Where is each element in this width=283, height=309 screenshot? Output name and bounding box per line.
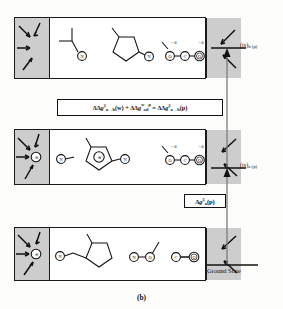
- energy-diagram: [206, 10, 283, 285]
- molecule-group-bottom: N N O C: [50, 228, 206, 280]
- atom-label-o-bot-1: O: [148, 255, 151, 260]
- solvent-shell-left-bottom: ⊖: [15, 228, 50, 280]
- solvent-shell-left-top: [15, 18, 50, 78]
- oco-fragment-middle: −δ O C −δ O: [162, 144, 204, 165]
- atom-label-o-mid-1: O: [168, 158, 171, 163]
- n-o-methyl-bottom: N O: [130, 242, 159, 261]
- equation-main-text: ΔΔg‡a→b(w) + ΔΔgw→psol = ΔΔg‡a→b(p): [93, 103, 187, 113]
- solvent-arrows-left-middle: ⊖: [15, 130, 49, 184]
- methylcyclopentane-bottom: N: [56, 234, 112, 267]
- figure-canvas: N N −δ O C: [0, 0, 283, 309]
- oco-fragment-top: −δ O C −δ O: [162, 40, 204, 61]
- charge-minus-bottom: ⊖: [35, 252, 38, 257]
- level-label-ts-b-sub: b (p): [248, 44, 257, 49]
- molecules-middle: N ⊕ N −δ O C: [50, 130, 206, 184]
- eq-sub-3: a→b: [171, 107, 180, 112]
- solvent-arrows-left-top: [15, 18, 49, 78]
- molecule-group-top: N N −δ O C: [50, 18, 206, 78]
- atom-label-o-top-2: O: [198, 54, 201, 59]
- eq-state-3: (p): [180, 103, 188, 110]
- figure-caption: (b): [0, 293, 283, 302]
- charge-delta-top-right: −δ: [198, 40, 204, 45]
- eq-state-1: (w): [115, 103, 124, 110]
- eq-subsup-2: w→psol: [141, 103, 151, 112]
- energy-arrow-head-ts-a: [224, 168, 231, 177]
- atom-label-o-mid-2: O: [198, 158, 201, 163]
- molecules-top: N N −δ O C: [50, 18, 206, 78]
- eq-plus: +: [125, 103, 129, 110]
- charge-delta-mid-right: −δ: [198, 144, 204, 149]
- eq-equals: =: [152, 103, 156, 110]
- level-label-ts-a-main: (ts): [240, 161, 248, 168]
- molecule-group-middle: N ⊕ N −δ O C: [50, 130, 206, 184]
- level-label-ts-a: (ts)a (p): [240, 161, 257, 169]
- atom-label-c-top: C: [184, 54, 187, 59]
- ground-state-label: Ground State: [207, 267, 241, 274]
- level-label-ts-b-main: (ts): [240, 41, 248, 48]
- eq-sub-2: sol: [141, 108, 151, 112]
- eq-dd-1: ΔΔ: [93, 103, 101, 110]
- c-o-fragment-bottom: C O: [172, 252, 199, 262]
- molecules-bottom: N N O C: [50, 228, 206, 280]
- charge-plus-middle: ⊕: [98, 155, 101, 160]
- charge-delta-top-left: −δ: [171, 40, 177, 45]
- charge-delta-mid-left: −δ: [171, 144, 177, 149]
- atom-label-c-mid: C: [184, 158, 187, 163]
- eq-sub-1: a→b: [106, 107, 115, 112]
- eq-dd-2: ΔΔ: [130, 103, 138, 110]
- level-label-ts-a-sub: a (p): [248, 164, 257, 169]
- charge-minus-middle: ⊖: [35, 155, 38, 160]
- atom-label-o-bot-2: O: [192, 255, 195, 260]
- atom-label-c-bot: C: [175, 255, 178, 260]
- energy-arrow-head-ts-b: [224, 48, 231, 57]
- panel-transition-state-b: N N −δ O C: [14, 17, 206, 79]
- branched-alkyl-top: N: [59, 28, 86, 60]
- solvent-arrows-left-bottom: ⊖: [15, 228, 49, 280]
- panel-ground-state: ⊖ N N O: [14, 227, 206, 281]
- atom-label-o-top-1: O: [168, 54, 171, 59]
- methylcyclopentyl-cation-middle: N ⊕ N: [57, 138, 130, 170]
- panel-transition-state-a: ⊖ N ⊕ N: [14, 129, 206, 185]
- solvent-shell-left-middle: ⊖: [15, 130, 50, 184]
- equation-box-main: ΔΔg‡a→b(w) + ΔΔgw→psol = ΔΔg‡a→b(p): [57, 99, 223, 116]
- level-label-ts-b: (ts)b (p): [240, 41, 257, 49]
- methylcyclopentane-top: N: [112, 28, 153, 61]
